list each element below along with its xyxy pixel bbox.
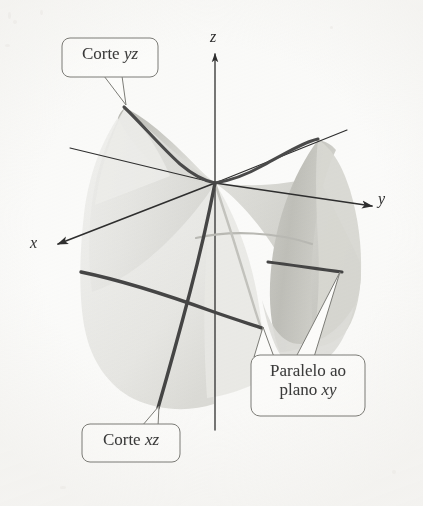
saddle-surface-figure: [0, 0, 423, 506]
callout-corte-xz[interactable]: [82, 406, 180, 462]
figure-root: Corte yz Corte xz Paralelo ao plano xy z…: [0, 0, 423, 506]
callout-corte-xz-pointer: [142, 406, 159, 426]
callout-corte-yz[interactable]: [62, 38, 158, 105]
callout-paralelo-box: [251, 355, 365, 416]
callout-corte-yz-pointer: [104, 76, 126, 105]
callout-corte-yz-box: [62, 38, 158, 77]
callout-corte-xz-box: [82, 424, 180, 462]
